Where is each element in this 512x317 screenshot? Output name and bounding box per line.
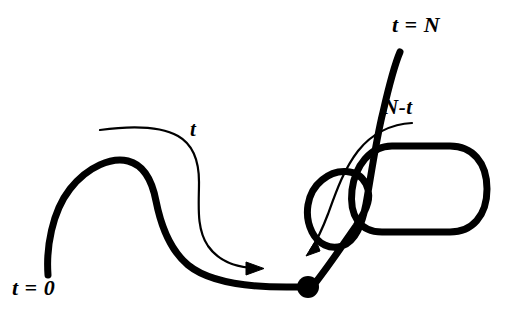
- forward-direction-arrowhead: [246, 262, 264, 275]
- marked-point: [297, 276, 319, 298]
- label-reverse-param-n-minus-t: N-t: [383, 97, 413, 118]
- main-knot-curve-right-segment: [307, 52, 400, 282]
- label-start-t-zero: t = 0: [12, 277, 55, 299]
- label-end-t-N: t = N: [392, 14, 440, 36]
- label-forward-param-t: t: [190, 119, 196, 140]
- diagram-canvas: [0, 0, 512, 317]
- knot-diagram-figure: t = 0 t = N N-t t: [0, 0, 512, 317]
- forward-direction-arrow-shaft: [100, 128, 258, 268]
